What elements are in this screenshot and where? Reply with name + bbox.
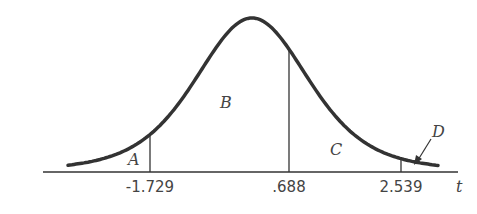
axis-label-t: t	[456, 177, 463, 196]
tick-label-3: 2.539	[380, 178, 423, 196]
region-label-a: A	[126, 150, 140, 169]
t-distribution-figure: -1.729 .688 2.539 t A B C D	[0, 0, 477, 214]
region-label-d: D	[431, 122, 445, 141]
tick-label-2: .688	[272, 178, 305, 196]
density-curve	[68, 18, 438, 165]
region-label-b: B	[219, 93, 232, 112]
pointer-arrow-d	[418, 139, 431, 160]
tick-label-1: -1.729	[126, 178, 174, 196]
region-label-c: C	[330, 140, 342, 159]
